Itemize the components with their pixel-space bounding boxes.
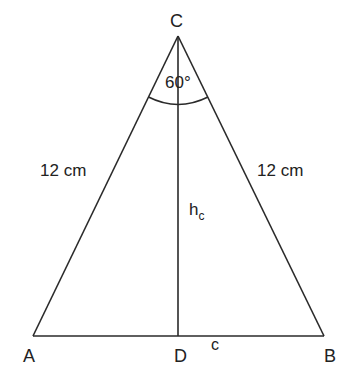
side-label-ac: 12 cm [40, 162, 86, 179]
vertex-label-c: C [170, 12, 183, 30]
side-ac [33, 36, 178, 336]
altitude-label-subscript: c [198, 209, 204, 223]
side-label-ab: c [211, 337, 219, 353]
vertex-label-d: D [174, 347, 187, 365]
side-label-bc: 12 cm [257, 162, 303, 179]
altitude-label: hc [189, 201, 204, 218]
triangle-diagram [0, 0, 346, 383]
vertex-label-b: B [324, 347, 336, 365]
vertex-label-a: A [23, 347, 35, 365]
side-bc [178, 36, 324, 336]
angle-label-c: 60° [165, 74, 191, 91]
